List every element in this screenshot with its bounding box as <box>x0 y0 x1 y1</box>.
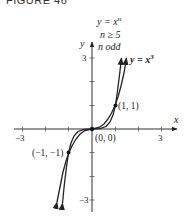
point-origin <box>90 127 94 131</box>
point-label-negative-one: (−1, −1) <box>32 148 63 159</box>
point-positive-one <box>114 104 118 108</box>
label-y-equals-x-cubed: y = x3 <box>129 53 154 65</box>
annotation-condition-odd: n odd <box>98 41 122 52</box>
point-negative-one <box>67 151 71 155</box>
x-tick-label-3: 3 <box>158 133 163 143</box>
x-tick-label-neg3: −3 <box>15 133 25 143</box>
y-tick-label-neg3: −3 <box>79 195 89 205</box>
y-axis-label: y <box>79 38 85 49</box>
point-label-positive-one: (1, 1) <box>118 101 139 112</box>
annotation-condition-ge5: n ≥ 5 <box>100 29 121 40</box>
y-tick-label-3: 3 <box>82 53 87 63</box>
point-label-origin: (0, 0) <box>95 133 116 144</box>
annotation-equation-n: y = xn <box>96 15 122 27</box>
cubic-power-function-graph: y = xn n ≥ 5 n odd y = x3 x y −3 3 3 −3 … <box>0 0 188 218</box>
x-axis-label: x <box>173 114 179 125</box>
